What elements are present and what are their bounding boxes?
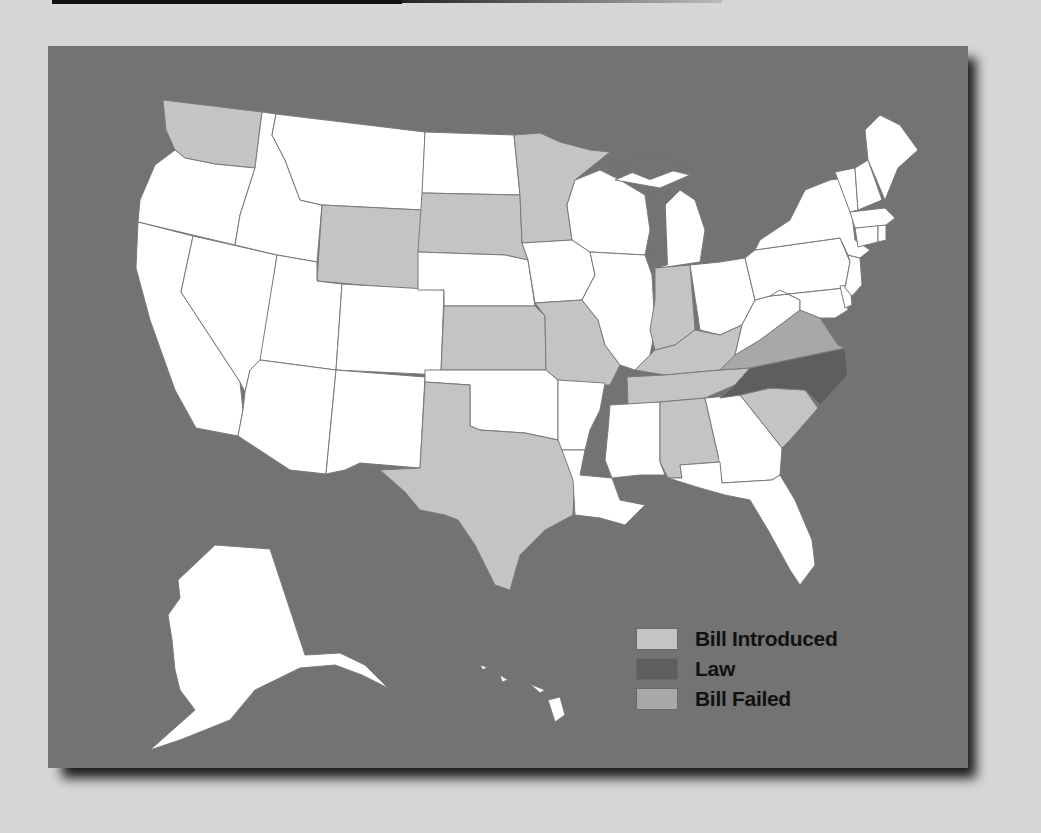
state-hawaii[interactable] [480,665,565,722]
state-kansas[interactable] [441,306,546,370]
state-alaska[interactable] [150,545,388,750]
legend-item-bill-introduced: Bill Introduced [636,624,838,654]
state-wyoming[interactable] [317,205,422,290]
legend-swatch-bill-introduced [636,628,678,650]
legend-swatch-law [636,658,678,680]
legend-label: Law [695,657,735,681]
state-rhode-island[interactable] [878,225,886,242]
legend-swatch-bill-failed [636,688,678,710]
state-colorado[interactable] [336,284,444,375]
state-connecticut[interactable] [855,225,878,247]
legend-item-law: Law [636,654,838,684]
state-mississippi[interactable] [605,402,665,478]
state-south-dakota[interactable] [418,193,528,260]
state-arizona[interactable] [238,360,336,474]
us-states-map [0,0,1041,833]
lake-michigan [650,188,668,268]
state-arkansas[interactable] [558,380,605,450]
state-massachusetts[interactable] [850,208,895,228]
legend: Bill Introduced Law Bill Failed [636,624,838,714]
legend-label: Bill Introduced [695,627,838,651]
legend-item-bill-failed: Bill Failed [636,684,838,714]
state-north-dakota[interactable] [422,132,520,195]
state-new-mexico[interactable] [326,370,425,474]
legend-label: Bill Failed [695,687,791,711]
